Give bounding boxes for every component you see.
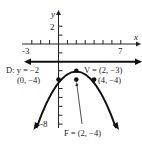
focus-leader-line [77, 84, 82, 124]
y-tick-label-2: 2 [50, 22, 55, 32]
y-axis [56, 10, 63, 128]
x-tick-label-neg3: -3 [22, 46, 30, 56]
directrix-line [24, 59, 142, 66]
x-tick-label-7: 7 [118, 46, 123, 56]
y-tick-label-neg8: -8 [40, 119, 48, 129]
point-0-neg4-label: (0, −4) [17, 75, 40, 85]
vertex-label: V = (2, −3) [84, 65, 122, 75]
point-4-neg4 [92, 77, 97, 82]
parabola-graph: y x 2 -3 7 -8 D: y = −2 V = (2, −3) (0, … [0, 0, 142, 144]
x-axis-label: x [133, 32, 138, 42]
x-axis [22, 40, 141, 47]
vertex-point [74, 68, 79, 73]
focus-label: F = (2, −4) [64, 128, 101, 138]
focus-point [74, 77, 79, 82]
point-4-neg4-label: (4, −4) [98, 75, 121, 85]
y-axis-label: y [50, 9, 55, 19]
point-0-neg4 [56, 77, 61, 82]
directrix-label: D: y = −2 [6, 65, 39, 75]
